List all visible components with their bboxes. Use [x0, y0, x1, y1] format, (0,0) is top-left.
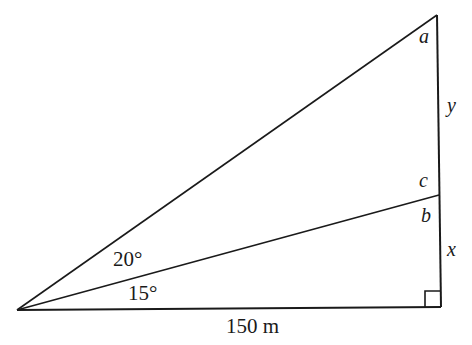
- label-angle-c: c: [419, 169, 428, 191]
- label-angle-15: 15°: [128, 281, 157, 305]
- label-angle-20: 20°: [113, 247, 142, 271]
- label-base-length: 150 m: [226, 314, 279, 338]
- upper-hypotenuse: [17, 15, 437, 310]
- right-angle-marker: [425, 291, 440, 307]
- label-angle-b: b: [421, 204, 431, 226]
- label-angle-a: a: [419, 25, 429, 47]
- triangle-diagram: a y c b x 20° 15° 150 m: [0, 0, 472, 345]
- vertical-side: [437, 15, 441, 307]
- base-side: [17, 307, 441, 310]
- lower-hypotenuse: [17, 195, 439, 310]
- label-side-x: x: [446, 238, 456, 260]
- label-side-y: y: [445, 94, 456, 117]
